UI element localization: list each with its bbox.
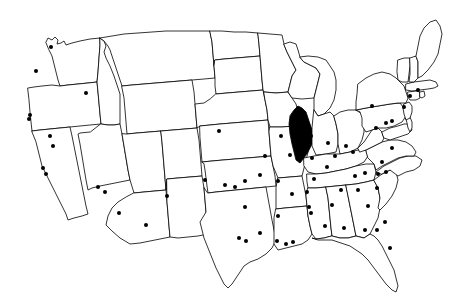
city-dot-new-york[interactable] (402, 105, 406, 109)
city-dot-columbus[interactable] (333, 154, 337, 158)
city-dot-birmingham[interactable] (330, 203, 334, 207)
city-dot-denver[interactable] (203, 178, 207, 182)
city-dot-tallahassee[interactable] (342, 226, 346, 230)
city-dot-new-orleans[interactable] (291, 240, 295, 244)
city-dot-minneapolis[interactable] (279, 134, 283, 138)
city-dot-wichita[interactable] (223, 183, 227, 187)
city-dot-bakersfield[interactable] (51, 144, 55, 148)
city-dot-montgomery[interactable] (309, 211, 313, 215)
city-dot-hartford[interactable] (408, 94, 412, 98)
city-dot-dallas[interactable] (243, 205, 247, 209)
city-dot-charlotte[interactable] (376, 172, 380, 176)
city-dot-louisville[interactable] (312, 177, 316, 181)
city-dot-atlanta[interactable] (356, 188, 360, 192)
city-dot-tulsa[interactable] (243, 179, 247, 183)
city-dot-des-moines[interactable] (263, 154, 267, 158)
state-ks[interactable]: Kansas (200, 120, 271, 162)
city-dot-tampa[interactable] (375, 228, 379, 232)
city-dot-shreveport[interactable] (275, 239, 279, 243)
state-or[interactable]: Oregon (28, 82, 101, 131)
city-dot-pittsburgh[interactable] (351, 150, 355, 154)
city-dot-philadelphia[interactable] (390, 119, 394, 123)
city-dot-orlando[interactable] (383, 220, 387, 224)
city-dot-richmond[interactable] (380, 160, 384, 164)
city-dot-cincinnati[interactable] (325, 165, 329, 169)
city-dot-jacksonville[interactable] (363, 228, 367, 232)
city-dot-milwaukee[interactable] (309, 134, 313, 138)
city-dot-el-paso[interactable] (144, 223, 148, 227)
city-dot-chicago[interactable] (288, 153, 292, 157)
city-dot-albuquerque[interactable] (165, 194, 169, 198)
city-dot-tucson[interactable] (117, 211, 121, 215)
city-dot-baltimore[interactable] (384, 121, 388, 125)
city-dot-buffalo[interactable] (370, 104, 374, 108)
city-dot-charleston-wv[interactable] (353, 174, 357, 178)
city-dot-omaha[interactable] (217, 129, 221, 133)
city-dot-san-francisco[interactable] (27, 117, 31, 121)
city-dot-boston[interactable] (416, 88, 420, 92)
state-wy[interactable]: Wyoming (122, 80, 197, 134)
city-dot-houston[interactable] (258, 231, 262, 235)
city-dot-sacramento[interactable] (28, 113, 32, 117)
city-dot-miami[interactable] (388, 246, 392, 250)
city-dot-raleigh[interactable] (384, 170, 388, 174)
city-dot-los-angeles[interactable] (41, 166, 45, 170)
city-dot-phoenix[interactable] (103, 190, 107, 194)
city-dot-kansas-city[interactable] (258, 173, 262, 177)
city-dot-detroit[interactable] (326, 141, 330, 145)
state-ri[interactable]: Rhode Island (420, 91, 425, 98)
city-dot-norfolk[interactable] (390, 146, 394, 150)
us-map-svg: WashingtonOregonCaliforniaIdahoNevadaMon… (0, 0, 450, 308)
city-dot-boise[interactable] (84, 91, 88, 95)
city-dot-las-vegas[interactable] (96, 185, 100, 189)
city-dot-portland[interactable] (34, 69, 38, 73)
city-dot-baton-rouge[interactable] (284, 242, 288, 246)
city-dot-indianapolis[interactable] (310, 156, 314, 160)
city-dot-austin[interactable] (244, 239, 248, 243)
us-map-container: WashingtonOregonCaliforniaIdahoNevadaMon… (0, 0, 450, 308)
city-dot-little-rock[interactable] (276, 214, 280, 218)
city-dot-memphis[interactable] (290, 192, 294, 196)
city-dot-mobile[interactable] (323, 224, 327, 228)
city-dot-columbia[interactable] (375, 186, 379, 190)
city-dot-savannah[interactable] (366, 204, 370, 208)
city-dot-st-louis[interactable] (276, 179, 280, 183)
city-dot-jackson[interactable] (307, 205, 311, 209)
state-vt[interactable]: Vermont (397, 58, 410, 82)
city-dot-washington-dc[interactable] (374, 126, 378, 130)
city-dot-seattle[interactable] (49, 45, 53, 49)
city-dot-nashville[interactable] (305, 190, 309, 194)
city-dot-cleveland[interactable] (344, 144, 348, 148)
city-dot-knoxville[interactable] (339, 188, 343, 192)
city-dot-greensboro[interactable] (363, 171, 367, 175)
city-dot-fresno[interactable] (48, 134, 52, 138)
state-sd[interactable]: South Dakota (214, 56, 263, 94)
city-dot-oklahoma-city[interactable] (233, 185, 237, 189)
city-dot-san-diego[interactable] (44, 172, 48, 176)
city-dot-san-antonio[interactable] (237, 236, 241, 240)
state-nh[interactable]: New Hampshire (409, 56, 418, 82)
